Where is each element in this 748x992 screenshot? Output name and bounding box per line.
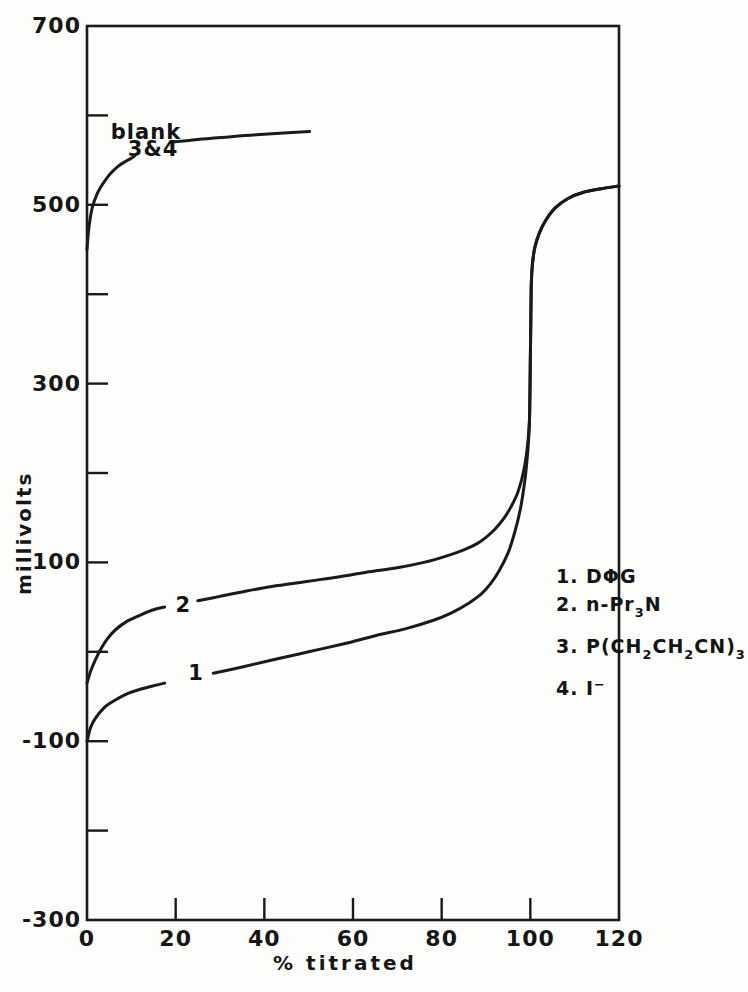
legend-item-2: 2.n-Pr3N: [556, 594, 662, 620]
x-tick-label-0: 0: [52, 928, 122, 950]
curve-1-label: 1: [188, 663, 204, 684]
legend-item-number: 3.: [556, 636, 586, 657]
legend-item-formula: I−: [586, 677, 606, 699]
x-axis-title: % titrated: [235, 951, 455, 975]
curve-curve 1 (DPhiG): [87, 683, 165, 741]
curve-curve 2 (n-Pr3N): [198, 186, 619, 601]
y-tick-label-500: 500: [0, 194, 81, 216]
legend-item-number: 2.: [556, 594, 586, 615]
legend-item-formula: DΦG: [586, 565, 637, 587]
legend-item-1: 1.DΦG: [556, 566, 637, 587]
legend-item-number: 4.: [556, 678, 586, 699]
titration-figure-page: 700500300100-100-300 020406080100120 mil…: [0, 0, 748, 992]
legend-item-formula: n-Pr3N: [586, 593, 662, 615]
x-tick-label-80: 80: [407, 928, 477, 950]
y-tick-label--100: -100: [0, 730, 81, 752]
x-tick-label-40: 40: [229, 928, 299, 950]
legend-item-4: 4.I−: [556, 678, 606, 699]
x-tick-label-20: 20: [141, 928, 211, 950]
legend-item-number: 1.: [556, 566, 586, 587]
curve-blank (curves 3 & 4): [172, 132, 310, 143]
three-and-four-label: 3&4: [128, 139, 179, 160]
titration-chart-canvas: [0, 0, 748, 992]
y-tick-label-300: 300: [0, 373, 81, 395]
x-tick-label-100: 100: [495, 928, 565, 950]
curve-blank (curves 3 & 4): [87, 156, 135, 250]
y-axis-title: millivolts: [12, 475, 36, 595]
y-tick-label-700: 700: [0, 15, 81, 37]
legend-item-3: 3.P(CH2CH2CN)3: [556, 636, 746, 662]
x-tick-label-60: 60: [318, 928, 388, 950]
legend-item-formula: P(CH2CH2CN)3: [586, 635, 746, 657]
curve-2-label: 2: [175, 595, 191, 616]
x-tick-label-120: 120: [584, 928, 654, 950]
curve-curve 2 (n-Pr3N): [87, 607, 165, 683]
